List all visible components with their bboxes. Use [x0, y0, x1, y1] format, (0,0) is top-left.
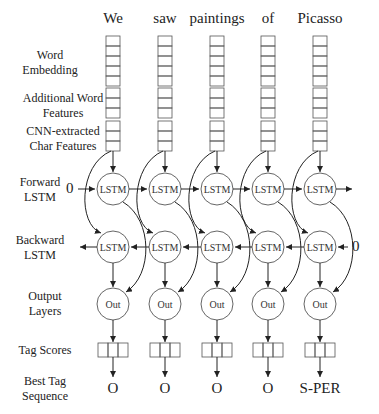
backward-init-zero: 0 — [352, 238, 360, 255]
network-diagram: LSTM LSTM Out — [0, 0, 379, 414]
column-2 — [189, 36, 250, 377]
column-4 — [292, 36, 353, 377]
tag-4: S-PER — [285, 380, 355, 397]
forward-init-zero: 0 — [66, 180, 74, 197]
